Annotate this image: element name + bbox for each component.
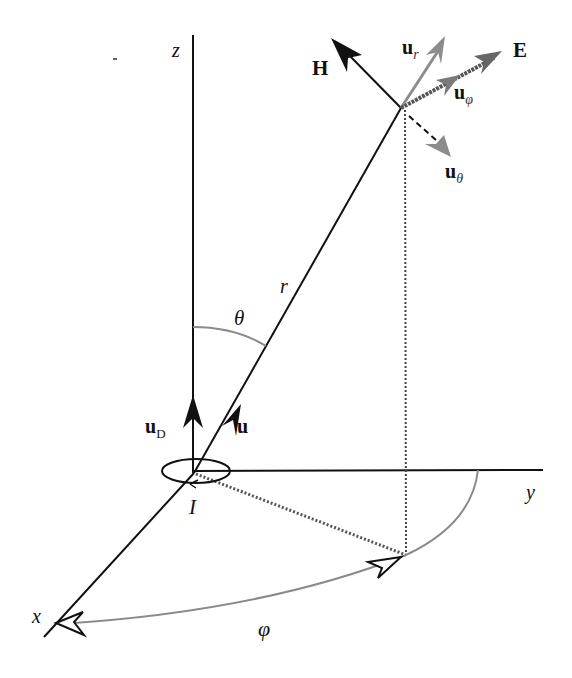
projection-horizontal xyxy=(196,474,406,555)
radius-line xyxy=(194,108,401,473)
phi-label: φ xyxy=(258,618,270,640)
u-theta-sub: θ xyxy=(456,171,463,186)
u-theta-label: uθ xyxy=(445,161,463,186)
h-arrowhead-icon xyxy=(331,38,362,72)
theta-arc xyxy=(193,327,266,346)
h-field-label: H xyxy=(312,58,328,79)
e-field-label: E xyxy=(513,40,527,61)
diagram-canvas xyxy=(0,0,572,678)
u-phi-base: u xyxy=(454,81,465,103)
y-axis xyxy=(194,470,543,471)
radius-label: r xyxy=(280,276,288,296)
u-label: u xyxy=(237,416,248,436)
u-d-label: uD xyxy=(145,416,166,440)
x-axis-label: x xyxy=(32,606,41,626)
u-d-sub: D xyxy=(156,426,165,441)
theta-label: θ xyxy=(234,308,244,329)
u-theta-base: u xyxy=(445,160,456,182)
u-phi-label: uφ xyxy=(454,82,473,107)
phi-arc xyxy=(58,470,478,624)
current-loop-arrow-icon xyxy=(190,480,198,488)
current-label: I xyxy=(189,497,196,518)
h-vector xyxy=(346,52,401,108)
projection-vertical xyxy=(405,110,406,555)
u-phi-sub: φ xyxy=(465,92,473,107)
u-r-arrowhead-icon xyxy=(426,36,445,64)
u-r-base: u xyxy=(402,36,413,58)
u-theta-arrowhead-icon xyxy=(425,135,451,157)
y-axis-label: y xyxy=(526,482,535,502)
u-r-sub: r xyxy=(413,47,418,62)
u-theta-vector xyxy=(409,116,436,140)
u-d-base: u xyxy=(145,415,156,437)
u-r-label: ur xyxy=(402,37,419,62)
e-arrowhead-icon xyxy=(474,51,502,74)
z-axis-label: z xyxy=(172,40,180,60)
